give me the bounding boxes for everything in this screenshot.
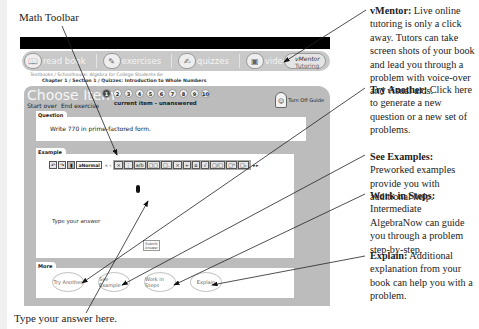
exponent-icon[interactable]: □ⁿ (226, 161, 237, 169)
exercise-controls: Start over End exercise (27, 102, 103, 109)
subscript-n-icon[interactable]: □ₙ (238, 161, 249, 169)
guide-character-icon: ☺ (275, 92, 287, 108)
quiz-panel: Choose Item 1 2 3 4 5 6 7 8 9 10 current… (24, 86, 330, 306)
nav-read-book[interactable]: 📖 read book (24, 52, 86, 70)
turn-off-guide-button[interactable]: ☺ Turn Off Guide (275, 92, 324, 108)
nav-exercises[interactable]: ✎ exercises (103, 52, 162, 70)
divider (171, 54, 172, 68)
item-status: current item - unanswered (114, 100, 197, 106)
math-toolbar-label: Math Toolbar (19, 11, 79, 23)
breadcrumb-line-2[interactable]: Chapter 1 / Section 1 / Quizzes: Introdu… (30, 78, 206, 84)
subscript-icon[interactable]: □₋ (161, 161, 172, 169)
more-box: More Try Another See Example Work in Ste… (36, 268, 294, 298)
math-symbol-group: × ⋮ a/b □□ □₋ × ÷ ± √ □/□ □ⁿ □ₙ (113, 160, 250, 170)
end-exercise-button[interactable]: End exercise (61, 102, 99, 109)
times-icon[interactable]: × (114, 161, 122, 169)
input-cursor[interactable] (136, 185, 140, 193)
nav-video[interactable]: ▣ video (246, 52, 288, 70)
undo-icon[interactable]: ↶ (49, 161, 57, 169)
question-text: Write 770 in prime-factored form. (50, 125, 151, 132)
item-button-5[interactable]: 5 (146, 89, 155, 98)
mixed-fraction-icon[interactable]: a/b (134, 161, 146, 169)
answer-prompt: Type your answer (52, 218, 100, 224)
item-button-6[interactable]: 6 (157, 89, 166, 98)
question-tab: Question (36, 111, 67, 118)
divide-icon[interactable]: ÷ (183, 161, 191, 169)
more-tab: More (36, 262, 56, 269)
see-example-button[interactable]: See Example (98, 272, 130, 292)
callout-work-in-steps: Work in Steps: Intermediate AlgebraNow c… (370, 189, 476, 256)
nav-bar: 📖 read book ✎ exercises ✍ quizzes ▣ vide… (22, 51, 330, 71)
pencil-icon: ✎ (103, 53, 121, 69)
item-button-9[interactable]: 9 (190, 89, 199, 98)
item-button-2[interactable]: 2 (113, 89, 122, 98)
more-tools-icon[interactable]: ▸▸ (253, 162, 259, 168)
book-icon: 📖 (24, 53, 42, 69)
ratio-icon[interactable]: □/□ (210, 161, 225, 169)
item-button-4[interactable]: 4 (135, 89, 144, 98)
math-toolbar: ↶ ↷ ▮ aNormal « ‹ × ⋮ a/b □□ □₋ × ÷ ± √ … (49, 160, 259, 170)
trash-icon[interactable]: ▮ (67, 161, 75, 169)
more-actions: Try Another See Example Work in Steps Ex… (52, 272, 236, 292)
item-button-7[interactable]: 7 (168, 89, 177, 98)
question-box: Question Write 770 in prime-factored for… (36, 117, 306, 141)
item-button-10[interactable]: 10 (201, 89, 210, 98)
title-bar (20, 37, 330, 49)
fraction-icon[interactable]: ⋮ (124, 161, 133, 169)
callout-try-another: Try Another: Click here to generate a ne… (370, 83, 476, 137)
divider (239, 54, 240, 68)
item-button-8[interactable]: 8 (179, 89, 188, 98)
nav-quizzes[interactable]: ✍ quizzes (178, 52, 229, 70)
explain-button[interactable]: Explain (190, 272, 222, 292)
answer-box: Example ↶ ↷ ▮ aNormal « ‹ × ⋮ a/b □□ □₋ … (36, 154, 294, 258)
work-in-steps-button[interactable]: Work in Steps (144, 272, 176, 292)
item-button-1[interactable]: 1 (102, 89, 111, 98)
try-another-button[interactable]: Try Another (52, 272, 84, 292)
divider (96, 54, 97, 68)
redo-icon[interactable]: ↷ (58, 161, 66, 169)
item-button-3[interactable]: 3 (124, 89, 133, 98)
vmentor-button[interactable]: vMentor Tutoring (284, 53, 326, 69)
page-margin (0, 0, 7, 329)
video-icon: ▣ (246, 53, 264, 69)
format-select[interactable]: aNormal (76, 161, 101, 169)
example-tab: Example (36, 148, 66, 155)
submit-answer-button[interactable]: Submit Answer (143, 240, 160, 251)
divider: « ‹ (105, 162, 112, 168)
quiz-icon: ✍ (178, 53, 196, 69)
multiply-icon[interactable]: × (173, 161, 181, 169)
boxes-icon[interactable]: □□ (147, 161, 160, 169)
callout-explain: Explain: Additional explanation from you… (370, 249, 476, 303)
plus-minus-icon[interactable]: ± (192, 161, 200, 169)
breadcrumb: Textbooks / Schoolhouse: Algebra for Col… (30, 72, 206, 84)
type-answer-label: Type your answer here. (14, 312, 117, 324)
item-selector: 1 2 3 4 5 6 7 8 9 10 (102, 89, 212, 98)
start-over-button[interactable]: Start over (27, 102, 57, 109)
sqrt-icon[interactable]: √ (201, 161, 209, 169)
